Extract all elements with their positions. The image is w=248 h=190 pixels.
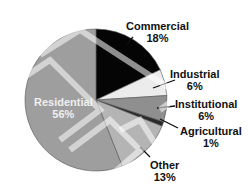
label-institutional: Institutional 6% xyxy=(175,98,237,122)
label-other: Other 13% xyxy=(150,159,179,183)
label-agricultural: Agricultural 1% xyxy=(180,125,242,149)
pie-chart xyxy=(0,0,248,190)
label-industrial: Industrial 6% xyxy=(170,68,220,92)
label-residential: Residential 56% xyxy=(34,96,93,120)
label-commercial: Commercial 18% xyxy=(126,20,189,44)
